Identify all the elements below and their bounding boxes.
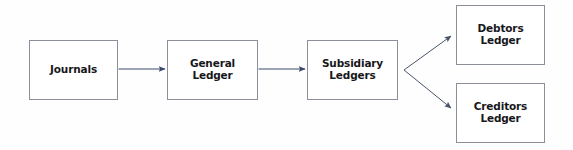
node-general-ledger-label: General Ledger — [190, 58, 235, 82]
node-subsidiary-ledgers: Subsidiary Ledgers — [307, 40, 398, 100]
node-debtors-ledger-label: Debtors Ledger — [478, 23, 524, 47]
node-subsidiary-ledgers-label: Subsidiary Ledgers — [322, 58, 383, 82]
node-creditors-ledger-label: Creditors Ledger — [474, 101, 527, 125]
node-general-ledger: General Ledger — [167, 40, 258, 100]
ledger-flow-diagram: Journals General Ledger Subsidiary Ledge… — [0, 0, 573, 150]
connector-subsidiary-ledgers-to-debtors-ledger — [404, 36, 451, 70]
node-journals-label: Journals — [50, 64, 97, 76]
node-debtors-ledger: Debtors Ledger — [456, 5, 545, 65]
node-journals: Journals — [29, 40, 118, 100]
connector-subsidiary-ledgers-to-creditors-ledger — [404, 70, 451, 108]
node-creditors-ledger: Creditors Ledger — [456, 83, 545, 143]
